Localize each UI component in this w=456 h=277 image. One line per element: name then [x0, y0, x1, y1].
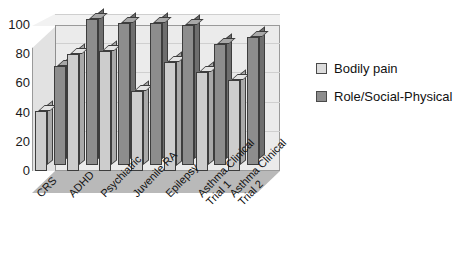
legend-swatch [316, 91, 327, 102]
bar [35, 111, 47, 171]
legend-label: Role/Social-Physical [334, 89, 453, 104]
bar-face [182, 25, 194, 165]
bar-face [86, 19, 98, 165]
bar-face [54, 66, 66, 165]
bar-face [214, 44, 226, 165]
bar [196, 72, 208, 171]
bar [67, 54, 79, 171]
y-axis: 020406080100 [0, 0, 30, 277]
bar [150, 23, 162, 165]
y-tick-label: 0 [23, 164, 30, 177]
bar-face [35, 111, 47, 171]
bar-side [79, 43, 85, 164]
legend: Bodily painRole/Social-Physical [316, 61, 453, 117]
bar [99, 51, 111, 171]
legend-item: Bodily pain [316, 61, 453, 76]
bar-side [259, 26, 265, 159]
y-tick-label: 40 [16, 106, 30, 119]
bar-side [208, 61, 214, 165]
bar [54, 66, 66, 165]
bar-face [67, 54, 79, 171]
bar [118, 23, 130, 165]
bar [214, 44, 226, 165]
bar-face [118, 23, 130, 165]
y-tick-label: 100 [8, 18, 30, 31]
y-tick-label: 20 [16, 135, 30, 148]
y-tick-label: 80 [16, 47, 30, 60]
bar-side [111, 41, 117, 165]
bar-face [99, 51, 111, 171]
bar-side [176, 51, 182, 165]
bar-side [143, 80, 149, 165]
bar-chart: 020406080100 CRSADHDPsychiatricJuvenile … [0, 0, 456, 277]
bar [86, 19, 98, 165]
bar [182, 25, 194, 165]
legend-swatch [316, 63, 327, 74]
y-tick-label: 60 [16, 76, 30, 89]
bar-face [150, 23, 162, 165]
legend-item: Role/Social-Physical [316, 89, 453, 104]
bar-face [196, 72, 208, 171]
legend-label: Bodily pain [334, 61, 398, 76]
